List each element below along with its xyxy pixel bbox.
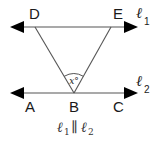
caption-l2: ℓ	[81, 119, 87, 135]
point-label-e: E	[113, 5, 123, 22]
caption-parallel-symbol: ∥	[71, 119, 77, 135]
segment-db	[35, 27, 74, 93]
caption-l1: ℓ	[57, 119, 63, 135]
geometry-diagram: x° D E A B C ℓ 1 ℓ 2 ℓ 1 ∥ ℓ 2	[0, 0, 158, 142]
point-label-c: C	[113, 98, 124, 115]
point-label-d: D	[29, 5, 40, 22]
segment-eb	[74, 27, 111, 93]
caption-l1-subscript: 1	[64, 127, 70, 137]
line-label-l2: ℓ	[136, 72, 142, 90]
line-label-l2-subscript: 2	[144, 84, 150, 95]
caption-l2-subscript: 2	[88, 127, 94, 137]
parallel-caption: ℓ 1 ∥ ℓ 2	[57, 119, 94, 137]
line-label-l1-subscript: 1	[144, 16, 150, 27]
point-label-a: A	[25, 98, 35, 115]
arrowhead-l1-right	[124, 21, 138, 33]
arrowhead-l1-left	[10, 21, 24, 33]
angle-label-x: x°	[69, 76, 79, 86]
point-label-b: B	[69, 98, 79, 115]
line-label-l1: ℓ	[136, 4, 142, 22]
arrowhead-l2-left	[10, 87, 24, 99]
